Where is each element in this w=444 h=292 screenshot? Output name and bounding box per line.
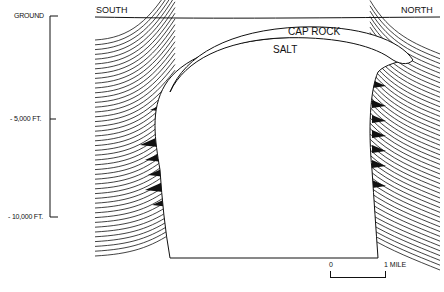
scale-bar — [330, 271, 386, 278]
salt-dome-cross-section — [0, 0, 444, 292]
direction-label-north: NORTH — [401, 6, 433, 15]
depth-label-10000ft: - 10,000 FT. — [8, 213, 43, 220]
direction-label-south: SOUTH — [96, 6, 128, 15]
scale-label-start: 0 — [329, 261, 333, 268]
scale-label-end: 1 MILE — [384, 261, 406, 268]
cap-rock-label: CAP ROCK — [288, 27, 340, 37]
salt-label: SALT — [273, 45, 297, 55]
depth-axis — [50, 16, 58, 217]
depth-label-ground: GROUND — [14, 12, 44, 19]
depth-label-5000ft: - 5,000 FT. — [10, 115, 41, 122]
salt-body — [155, 37, 410, 258]
